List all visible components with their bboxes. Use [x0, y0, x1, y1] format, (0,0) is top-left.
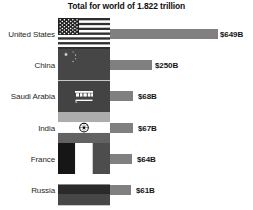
category-label-united-states: United States: [0, 29, 55, 38]
category-label-china: China: [0, 60, 55, 69]
bar-india: [110, 123, 133, 133]
france-flag-icon: [58, 143, 110, 174]
bar-saudi-arabia: [110, 91, 133, 101]
value-label-russia: $61B: [136, 186, 155, 195]
bar-chart: Total for world of 1.822 trillion United…: [0, 0, 253, 210]
saudi-arabia-flag-icon: [58, 81, 110, 112]
china-flag-icon: [58, 49, 110, 80]
value-label-united-states: $649B: [220, 29, 243, 38]
chart-title: Total for world of 1.822 trillion: [0, 1, 253, 11]
united-states-flag-icon: [58, 18, 110, 49]
category-label-france: France: [0, 154, 55, 163]
table-row: Russia $61B: [0, 174, 253, 205]
russia-flag-icon: [58, 174, 110, 205]
table-row: India $67B: [0, 112, 253, 143]
value-label-france: $64B: [137, 154, 156, 163]
value-label-saudi-arabia: $68B: [138, 92, 157, 101]
value-label-china: $250B: [155, 60, 178, 69]
bar-russia: [110, 185, 131, 195]
india-flag-icon: [58, 112, 110, 143]
bar-united-states: [110, 29, 218, 39]
bar-france: [110, 154, 132, 164]
chart-rows: United States: [0, 18, 253, 206]
category-label-india: India: [0, 123, 55, 132]
bar-china: [110, 60, 152, 70]
table-row: United States: [0, 18, 253, 49]
table-row: China $250B: [0, 49, 253, 80]
value-label-india: $67B: [138, 123, 157, 132]
category-label-saudi-arabia: Saudi Arabia: [0, 92, 55, 101]
category-label-russia: Russia: [0, 186, 55, 195]
table-row: Saudi Arabia $68B: [0, 81, 253, 112]
table-row: France $64B: [0, 143, 253, 174]
